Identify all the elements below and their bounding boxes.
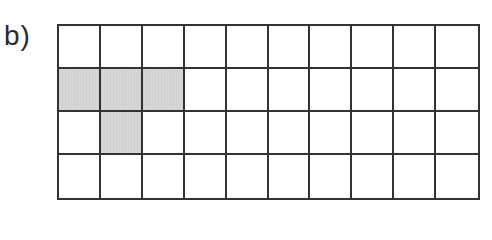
grid-cell-shaded	[101, 112, 143, 155]
grid-cell	[269, 112, 311, 155]
grid-cell	[394, 155, 436, 198]
grid-cell	[101, 155, 143, 198]
grid-cell	[143, 155, 185, 198]
grid-cell	[436, 26, 478, 69]
grid-cell	[394, 112, 436, 155]
grid-cell	[143, 112, 185, 155]
grid-cell	[185, 155, 227, 198]
grid-cell	[59, 26, 101, 69]
grid-cell	[269, 26, 311, 69]
grid-cell	[101, 26, 143, 69]
grid-cell-shaded	[59, 69, 101, 112]
grid-cell	[269, 155, 311, 198]
grid-cell	[352, 155, 394, 198]
grid-cell	[352, 69, 394, 112]
grid-cell	[269, 69, 311, 112]
grid-cell	[143, 26, 185, 69]
grid-cell	[310, 155, 352, 198]
part-label: b)	[4, 22, 31, 50]
grid-cell	[352, 26, 394, 69]
grid-cell	[59, 112, 101, 155]
grid-cell	[310, 69, 352, 112]
grid-cell	[352, 112, 394, 155]
grid-cell-shaded	[143, 69, 185, 112]
grid-cell	[436, 112, 478, 155]
grid-cell	[59, 155, 101, 198]
grid-cell	[227, 112, 269, 155]
grid-cell-shaded	[101, 69, 143, 112]
grid-cell	[436, 69, 478, 112]
grid-cell	[185, 26, 227, 69]
grid-cell	[310, 26, 352, 69]
grid-cell	[185, 69, 227, 112]
grid-cell	[394, 69, 436, 112]
grid-cell	[185, 112, 227, 155]
shaded-grid	[57, 24, 480, 200]
grid-cell	[310, 112, 352, 155]
grid-cell	[394, 26, 436, 69]
grid-cell	[436, 155, 478, 198]
grid-cell	[227, 26, 269, 69]
grid-cell	[227, 69, 269, 112]
grid-cell	[227, 155, 269, 198]
